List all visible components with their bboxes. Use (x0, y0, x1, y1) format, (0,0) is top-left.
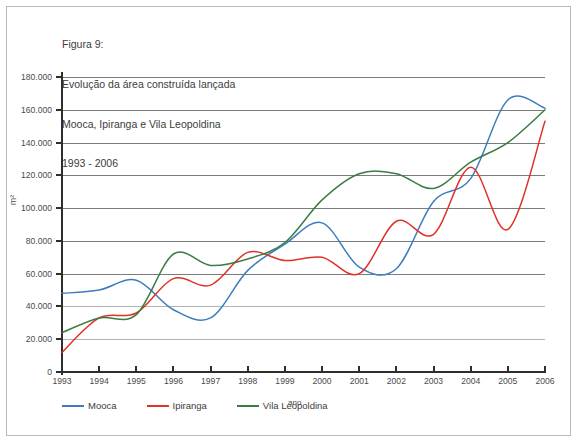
legend-swatch-icon (237, 405, 259, 407)
y-tick-label: 140.000 (0, 138, 52, 148)
caption-line-1: Figura 9: (62, 38, 235, 51)
y-tick-label: 20.000 (0, 334, 52, 344)
y-tick-label: 80.000 (0, 236, 52, 246)
y-tick-label: 60.000 (0, 269, 52, 279)
x-tick-label: 2001 (339, 376, 379, 386)
legend-item-label: Ipiranga (173, 400, 207, 411)
series-line (62, 121, 545, 352)
legend-item[interactable]: Mooca (62, 400, 117, 411)
y-tick-label: 120.000 (0, 170, 52, 180)
x-tick-label: 2005 (488, 376, 528, 386)
y-tick-label: 180.000 (0, 72, 52, 82)
x-tick-label: 1995 (116, 376, 156, 386)
y-tick-label: 160.000 (0, 105, 52, 115)
series-line (62, 110, 545, 333)
x-tick-label: 1994 (79, 376, 119, 386)
legend-item[interactable]: Vila Leopoldina (237, 400, 328, 411)
legend-swatch-icon (62, 405, 84, 407)
chart-plot-area (62, 77, 545, 372)
x-tick-label: 2002 (376, 376, 416, 386)
legend-item[interactable]: Ipiranga (147, 400, 207, 411)
legend-swatch-icon (147, 405, 169, 407)
x-tick-label: 1999 (265, 376, 305, 386)
x-tick-label: 1996 (153, 376, 193, 386)
x-tick-label: 1993 (42, 376, 82, 386)
legend-item-label: Mooca (88, 400, 117, 411)
y-tick-label: 100.000 (0, 203, 52, 213)
legend-item-label: Vila Leopoldina (263, 400, 328, 411)
x-tick-label: 2003 (414, 376, 454, 386)
x-tick-label: 1997 (191, 376, 231, 386)
x-tick-label: 2006 (525, 376, 565, 386)
y-tick-label: 40.000 (0, 301, 52, 311)
series-line (62, 96, 545, 320)
x-tick-label: 1998 (228, 376, 268, 386)
x-tick-label: 2000 (302, 376, 342, 386)
chart-legend: MoocaIpirangaVila Leopoldina (62, 400, 358, 411)
x-tick-label: 2004 (451, 376, 491, 386)
figure-container: Figura 9: Evolução da área construída la… (0, 0, 578, 443)
